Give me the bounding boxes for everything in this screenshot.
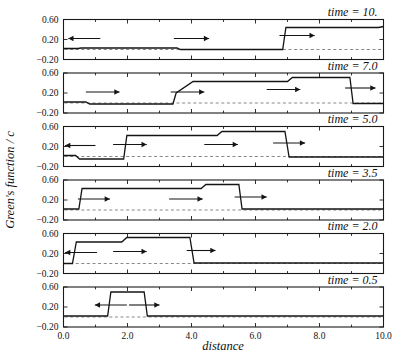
plot-panel: −0.200.200.60time = 10. xyxy=(37,5,384,65)
y-tick-label: −0.20 xyxy=(37,269,59,279)
arrow-head xyxy=(210,248,215,253)
direction-arrow-right xyxy=(345,85,375,90)
x-tick-label: 4.0 xyxy=(186,331,198,341)
data-curve xyxy=(64,132,384,160)
direction-arrow-right xyxy=(86,89,120,94)
panel-time-label: time = 5.0 xyxy=(328,112,378,126)
y-tick-label: 0.20 xyxy=(42,302,59,312)
direction-arrow-left xyxy=(65,250,97,255)
data-curve xyxy=(64,27,384,50)
x-tick-label: 2.0 xyxy=(122,331,134,341)
y-tick-label: 0.20 xyxy=(42,142,59,152)
y-tick-label: −0.20 xyxy=(37,55,59,65)
green-function-figure: −0.200.200.60time = 10.−0.200.200.60time… xyxy=(0,0,397,354)
y-tick-label: 0.20 xyxy=(42,35,59,45)
y-tick-label: 0.60 xyxy=(42,122,59,132)
panel-time-label: time = 10. xyxy=(328,5,378,19)
y-axis-title: Green's function / c xyxy=(3,131,17,229)
arrow-head xyxy=(142,142,147,147)
y-tick-label: 0.20 xyxy=(42,195,59,205)
arrow-head xyxy=(114,89,119,94)
direction-arrow-right xyxy=(174,36,209,41)
plot-panel: −0.200.200.60time = 5.0 xyxy=(37,112,384,172)
direction-arrow-right xyxy=(273,140,305,145)
arrow-head xyxy=(295,87,300,92)
panel-time-label: time = 0.5 xyxy=(328,273,378,287)
panel-frame xyxy=(64,127,384,167)
x-tick-label: 6.0 xyxy=(250,331,262,341)
data-curve xyxy=(64,78,384,105)
arrow-head xyxy=(68,36,73,41)
panel-frame xyxy=(64,73,384,113)
y-tick-label: −0.20 xyxy=(37,215,59,225)
arrow-head xyxy=(95,302,100,307)
arrow-head xyxy=(65,143,70,148)
direction-arrow-right xyxy=(78,196,110,201)
plot-panel: −0.200.200.60time = 3.5 xyxy=(37,166,384,226)
x-tick-label: 0.0 xyxy=(58,331,70,341)
y-tick-label: 0.20 xyxy=(42,88,59,98)
y-tick-label: 0.60 xyxy=(42,68,59,78)
y-tick-label: 0.60 xyxy=(42,175,59,185)
direction-arrow-right xyxy=(235,194,267,199)
plot-panel: −0.200.200.60time = 2.0 xyxy=(37,219,384,279)
panel-time-label: time = 2.0 xyxy=(328,219,378,233)
arrow-head xyxy=(262,194,267,199)
direction-arrow-right xyxy=(129,302,159,307)
direction-arrow-right xyxy=(267,87,301,92)
direction-arrow-right xyxy=(113,249,147,254)
y-tick-label: 0.60 xyxy=(42,282,59,292)
data-curve xyxy=(64,185,384,210)
data-curve xyxy=(64,238,384,264)
data-curve xyxy=(64,292,384,316)
panels-group: −0.200.200.60time = 10.−0.200.200.60time… xyxy=(37,5,384,332)
direction-arrow-left xyxy=(95,302,127,307)
y-tick-label: −0.20 xyxy=(37,108,59,118)
direction-arrow-left xyxy=(68,36,100,41)
panel-frame xyxy=(64,180,384,220)
arrow-head xyxy=(154,302,159,307)
y-tick-label: 0.20 xyxy=(42,249,59,259)
arrow-head xyxy=(198,196,203,201)
y-tick-label: 0.60 xyxy=(42,15,59,25)
x-tick-label: 8.0 xyxy=(314,331,326,341)
plot-panel: −0.200.200.60time = 7.0 xyxy=(37,59,384,119)
panel-time-label: time = 3.5 xyxy=(328,166,378,180)
arrow-head xyxy=(204,36,209,41)
direction-arrow-right xyxy=(169,196,203,201)
arrow-head xyxy=(199,89,204,94)
arrow-head xyxy=(300,140,305,145)
panel-frame xyxy=(64,234,384,274)
x-tick-label: 10.0 xyxy=(375,331,392,341)
arrow-head xyxy=(142,249,147,254)
figure-canvas: −0.200.200.60time = 10.−0.200.200.60time… xyxy=(0,0,397,354)
panel-frame xyxy=(64,287,384,327)
y-tick-label: −0.20 xyxy=(37,162,59,172)
panel-time-label: time = 7.0 xyxy=(328,59,378,73)
x-axis-title: distance xyxy=(202,339,244,353)
arrow-head xyxy=(370,85,375,90)
direction-arrow-right xyxy=(187,248,216,253)
arrow-head xyxy=(105,196,110,201)
arrow-head xyxy=(233,142,238,147)
direction-arrow-right xyxy=(204,142,238,147)
arrow-head xyxy=(310,33,315,38)
y-tick-label: 0.60 xyxy=(42,229,59,239)
y-tick-label: −0.20 xyxy=(37,322,59,332)
panel-frame xyxy=(64,20,384,60)
direction-arrow-left xyxy=(65,143,95,148)
direction-arrow-right xyxy=(113,142,147,147)
plot-panel: −0.200.200.60time = 0.5 xyxy=(37,273,384,333)
arrow-head xyxy=(65,250,70,255)
